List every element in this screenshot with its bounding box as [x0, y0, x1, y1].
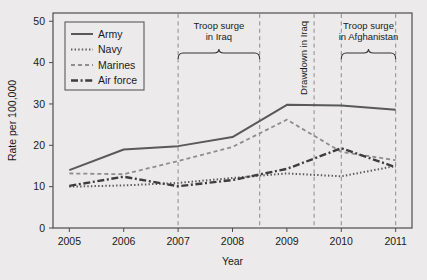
legend-label-air-force: Air force: [98, 74, 137, 86]
x-tick-label-5: 2010: [330, 235, 354, 247]
x-tick-label-6: 2011: [384, 235, 407, 247]
y-tick-label-3: 30: [33, 98, 45, 110]
x-tick-label-0: 2005: [58, 235, 82, 247]
line-chart: 010203040502005200620072008200920102011Y…: [0, 0, 427, 280]
x-axis-title: Year: [222, 255, 244, 267]
annotation-label-drawdown-iraq-0: Drawdown in Iraq: [298, 21, 309, 95]
chart-screenshot: 010203040502005200620072008200920102011Y…: [0, 0, 427, 280]
y-tick-label-1: 10: [33, 180, 45, 192]
x-tick-label-4: 2009: [275, 235, 299, 247]
annotation-label-troop-surge-afghanistan-1: in Afghanistan: [339, 31, 399, 42]
x-tick-label-1: 2006: [112, 235, 136, 247]
y-tick-label-2: 20: [33, 139, 45, 151]
x-tick-label-2: 2007: [166, 235, 190, 247]
y-tick-label-4: 40: [33, 56, 45, 68]
annotation-label-troop-surge-iraq-1: in Iraq: [206, 31, 232, 42]
y-axis-title: Rate per 100,000: [6, 80, 18, 161]
y-tick-label-5: 50: [33, 15, 45, 27]
annotation-label-troop-surge-iraq-0: Troop surge: [193, 20, 244, 31]
x-tick-label-3: 2008: [221, 235, 245, 247]
y-tick-label-0: 0: [39, 222, 45, 234]
legend-label-navy: Navy: [98, 43, 123, 55]
legend-label-army: Army: [98, 28, 123, 40]
legend-label-marines: Marines: [98, 59, 135, 71]
annotation-label-troop-surge-afghanistan-0: Troop surge: [343, 20, 394, 31]
